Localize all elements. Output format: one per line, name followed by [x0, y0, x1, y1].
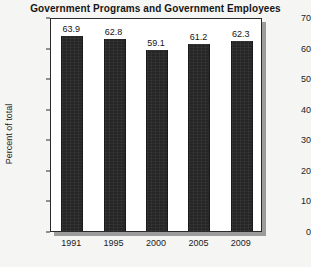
x-tick-label: 2000 [146, 238, 166, 248]
y-tick-label: 50 [267, 74, 311, 84]
bar-value-label: 63.9 [62, 24, 80, 34]
chart-figure: Government Programs and Government Emplo… [0, 0, 311, 267]
bar [104, 39, 126, 231]
bar [231, 41, 253, 231]
chart-title: Government Programs and Government Emplo… [0, 3, 311, 14]
y-axis-label: Percent of total [4, 74, 14, 194]
y-tick-label: 20 [267, 166, 311, 176]
x-tick-label: 2009 [231, 238, 251, 248]
y-tick-label: 40 [267, 105, 311, 115]
y-tick-label: 60 [267, 44, 311, 54]
bar-value-label: 61.2 [190, 32, 208, 42]
x-tick-label: 1991 [61, 238, 81, 248]
bar [61, 36, 83, 231]
bar-value-label: 62.3 [232, 29, 250, 39]
x-tick-label: 2005 [188, 238, 208, 248]
y-tick-label: 70 [267, 13, 311, 23]
bar-value-label: 62.8 [105, 27, 123, 37]
y-tick-label: 30 [267, 135, 311, 145]
y-tick-label: 10 [267, 196, 311, 206]
bar [188, 44, 210, 231]
y-tick-label: 0 [267, 227, 311, 237]
bar-value-label: 59.1 [147, 38, 165, 48]
x-tick-label: 1995 [104, 238, 124, 248]
bar [146, 50, 168, 231]
plot-area [50, 18, 262, 232]
